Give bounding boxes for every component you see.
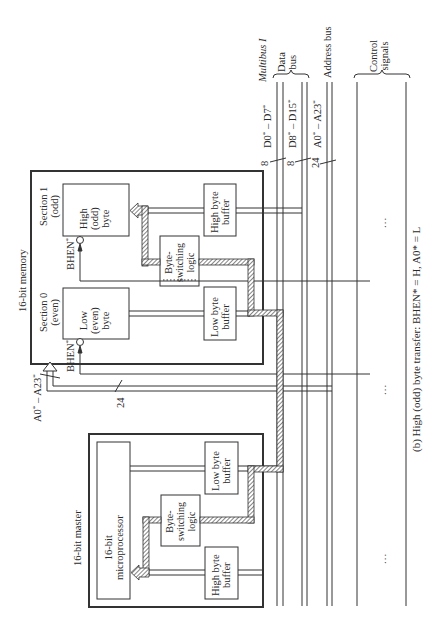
d-low-signal-label: D0* – D7* [262,105,274,148]
d-high-signal-label: D8* – D15* [287,100,299,148]
data-bus-high-lines [302,82,307,606]
addr-signal-label: A0* – A23* [312,100,324,148]
ellipsis-3: ... [376,553,388,564]
mem-low-buffer-label: Low byte buffer [209,297,231,337]
section1-label: Section 1 (odd) [38,187,60,226]
memory-title: 16-bit memory [17,249,29,312]
master-high-buffer-label: High byte buffer [210,554,232,596]
multibus-title: Multibus I [257,39,269,82]
low-byte-label: Low (even) byte [78,307,111,334]
ellipsis-1: ... [376,217,388,228]
master-low-buffer-label: Low byte buffer [210,451,232,491]
master-title: 16-bit master [72,510,84,566]
d-low-width: 8 [259,161,271,166]
addr-width: 24 [310,158,322,169]
master-byte-switch-label: Byte- switching logic [164,502,197,541]
data-bus-label: Data bus [276,52,298,72]
section0-label: Section 0 (even) [38,293,60,332]
bhen-label-high: BHEN* [65,238,77,270]
high-byte-label: High (odd) byte [78,207,111,230]
address-bus-label: Address bus [322,26,334,78]
control-signals-label: Control signals [368,40,390,72]
addr-in-label: A0* – A23* [32,374,44,422]
addr-in-width: 24 [115,398,127,409]
cpu-label: 16-bit microprocessor [103,515,125,580]
control-signal-lines [357,82,406,606]
figure-caption: (b) High (odd) byte transfer: BHEN* = H,… [410,227,422,452]
d-high-width: 8 [285,161,297,166]
address-bus-lines [327,82,332,606]
mem-high-buffer-label: High byte buffer [209,191,231,233]
bhen-label-low: BHEN* [65,340,77,372]
mem-byte-switch-label: Byte- switching logic [163,243,196,282]
ellipsis-2: ... [376,384,388,395]
